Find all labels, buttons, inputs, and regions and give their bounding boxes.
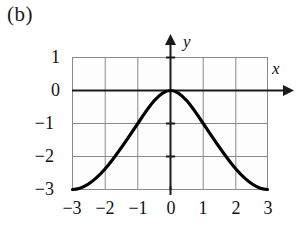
- x-tick-label-3: 3: [253, 199, 283, 217]
- y-tick-label-neg3: −3: [22, 180, 54, 198]
- y-tick-label-0: 0: [28, 81, 60, 99]
- x-tick-label-neg1: −1: [123, 199, 153, 217]
- x-tick-label-0: 0: [156, 199, 186, 217]
- x-tick-label-2: 2: [221, 199, 251, 217]
- y-axis-label: y: [183, 33, 191, 50]
- y-tick-label-1: 1: [28, 48, 60, 66]
- y-axis-arrow: [165, 34, 176, 45]
- x-tick-label-neg3: −3: [57, 199, 87, 217]
- figure-panel: (b): [0, 0, 300, 235]
- x-axis-label: x: [272, 60, 280, 77]
- y-tick-label-neg2: −2: [22, 147, 54, 165]
- x-axis-arrow: [283, 85, 294, 96]
- x-tick-label-neg2: −2: [90, 199, 120, 217]
- x-tick-label-1: 1: [188, 199, 218, 217]
- y-tick-label-neg1: −1: [22, 114, 54, 132]
